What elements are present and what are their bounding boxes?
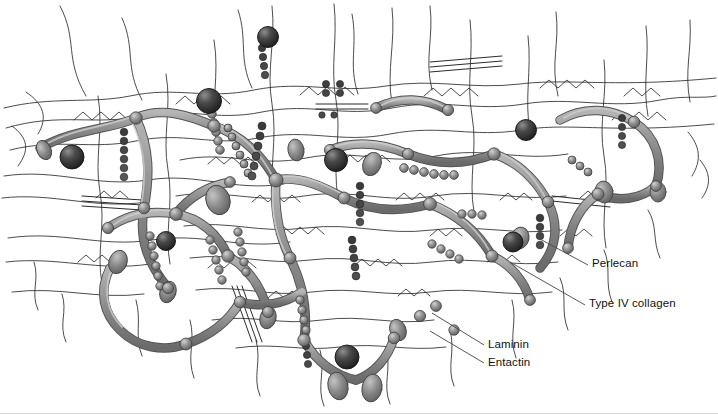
label-type-iv-collagen: Type IV collagen bbox=[589, 298, 676, 310]
leader-entactin bbox=[430, 331, 484, 363]
leader-laminin bbox=[432, 313, 484, 345]
basement-membrane-illustration bbox=[0, 0, 718, 414]
label-laminin: Laminin bbox=[488, 339, 529, 351]
entactin-spheres bbox=[60, 27, 537, 370]
figure-canvas: Perlecan Type IV collagen Laminin Entact… bbox=[0, 0, 718, 414]
label-perlecan: Perlecan bbox=[592, 258, 638, 270]
label-entactin: Entactin bbox=[488, 357, 530, 369]
